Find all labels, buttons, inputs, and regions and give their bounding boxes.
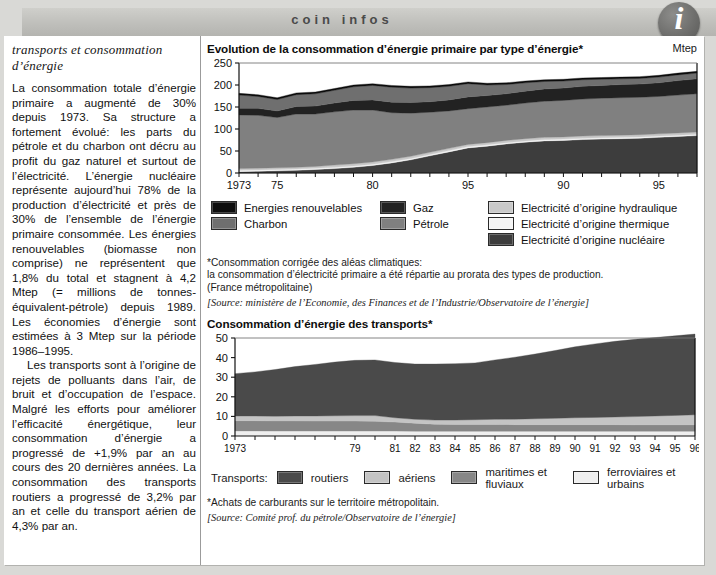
legend-item[interactable]: Electricité d’origine hydraulique (488, 201, 703, 214)
chart2-legend-label: Transports: (211, 472, 268, 484)
legend-swatch-charbon (211, 217, 237, 230)
svg-text:200: 200 (214, 79, 232, 91)
legend-swatch-hydraulique (488, 201, 514, 214)
svg-text:250: 250 (214, 57, 232, 69)
article-body: La consommation totale d’énergie primair… (12, 81, 196, 533)
legend-label: Gaz (413, 202, 434, 214)
chart1-source: [Source: ministère de l’Economie, des Fi… (207, 297, 699, 309)
footnote-line: la consommation d’électricité primaire a… (207, 269, 699, 281)
chart1-legend-col-1: Energies renouvelables Charbon (211, 201, 371, 233)
svg-text:40: 40 (216, 351, 228, 363)
chart1-title: Evolution de la consommation d’énergie p… (207, 42, 699, 55)
legend-swatch-routiers (277, 471, 303, 484)
chart1-legend-col-2: Gaz Pétrole (380, 201, 490, 233)
chart1: 05010015020025019737580959095 (207, 57, 699, 197)
legend-item[interactable]: routiers (277, 471, 349, 484)
svg-text:87: 87 (509, 443, 521, 454)
footnote-line: *Consommation corrigée des aléas climati… (207, 257, 699, 269)
legend-swatch-ferroviaires (573, 471, 599, 484)
legend-item[interactable]: Electricité d’origine nucléaire (488, 233, 703, 246)
svg-text:0: 0 (222, 430, 228, 442)
svg-text:95: 95 (669, 443, 681, 454)
legend-label: aériens (398, 472, 435, 484)
svg-text:81: 81 (389, 443, 401, 454)
svg-text:90: 90 (569, 443, 581, 454)
chart1-legend-col-3: Electricité d’origine hydraulique Electr… (488, 201, 703, 249)
svg-text:50: 50 (220, 145, 232, 157)
content-sheet: transports et consommation d’énergie La … (4, 36, 704, 565)
article-paragraph-1: La consommation totale d’énergie primair… (12, 81, 196, 358)
info-icon-glyph: i (658, 0, 700, 37)
legend-swatch-gaz (380, 201, 406, 214)
svg-text:89: 89 (549, 443, 561, 454)
chart1-plot: 05010015020025019737580959095 (207, 57, 699, 197)
legend-swatch-maritimes (451, 471, 477, 484)
chart2-source: [Source: Comité prof. du pétrole/Observa… (207, 512, 699, 524)
legend-swatch-thermique (488, 217, 514, 230)
chart2-plot: 0102030405019737981828384858687888990919… (207, 332, 699, 460)
footnote-line: *Achats de carburants sur le territoire … (207, 497, 699, 509)
article-paragraph-2: Les transports sont à l’origine de rejet… (12, 358, 196, 533)
chart1-footnotes: *Consommation corrigée des aléas climati… (207, 257, 699, 310)
chart2-footnotes: *Achats de carburants sur le territoire … (207, 497, 699, 525)
svg-text:10: 10 (216, 410, 228, 422)
chart1-unit-label: Mtep (673, 42, 697, 54)
legend-label: Electricité d’origine thermique (521, 218, 669, 230)
left-column: transports et consommation d’énergie La … (12, 42, 196, 533)
legend-swatch-petrole (380, 217, 406, 230)
svg-text:91: 91 (589, 443, 601, 454)
svg-text:50: 50 (216, 332, 228, 344)
legend-label: Electricité d’origine hydraulique (521, 202, 677, 214)
svg-text:30: 30 (216, 371, 228, 383)
legend-item[interactable]: Gaz (380, 201, 490, 214)
svg-text:80: 80 (366, 179, 378, 191)
svg-text:84: 84 (449, 443, 461, 454)
chart1-header: Evolution de la consommation d’énergie p… (207, 42, 699, 55)
svg-text:83: 83 (429, 443, 441, 454)
chart2: 0102030405019737981828384858687888990919… (207, 332, 699, 460)
legend-item[interactable]: aériens (364, 471, 435, 484)
legend-label: maritimes et fluviaux (485, 466, 557, 490)
svg-text:1973: 1973 (224, 443, 247, 454)
legend-label: Electricité d’origine nucléaire (521, 234, 665, 246)
legend-item[interactable]: Electricité d’origine thermique (488, 217, 703, 230)
chart1-legend: Energies renouvelables Charbon Gaz Pétro… (207, 201, 699, 255)
svg-text:75: 75 (271, 179, 283, 191)
legend-item[interactable]: ferroviaires et urbains (573, 466, 683, 490)
svg-text:150: 150 (214, 101, 232, 113)
svg-text:79: 79 (349, 443, 361, 454)
header-title: coin infos (22, 12, 662, 27)
svg-text:82: 82 (409, 443, 421, 454)
header-band: coin infos (22, 8, 716, 36)
legend-swatch-aeriens (364, 471, 390, 484)
legend-item[interactable]: Charbon (211, 217, 371, 230)
legend-label: routiers (311, 472, 349, 484)
footnote-line: (France métropolitaine) (207, 282, 699, 294)
legend-item[interactable]: Energies renouvelables (211, 201, 371, 214)
svg-text:20: 20 (216, 390, 228, 402)
page-root: coin infos i transports et consommation … (0, 0, 716, 575)
svg-text:90: 90 (557, 179, 569, 191)
svg-text:1973: 1973 (227, 179, 251, 191)
svg-text:93: 93 (629, 443, 641, 454)
svg-text:0: 0 (226, 167, 232, 179)
svg-text:92: 92 (609, 443, 621, 454)
legend-swatch-nucleaire (488, 233, 514, 246)
right-column: Evolution de la consommation d’énergie p… (207, 42, 699, 524)
legend-label: Pétrole (413, 218, 449, 230)
column-divider (200, 36, 201, 565)
svg-text:86: 86 (489, 443, 501, 454)
legend-label: ferroviaires et urbains (607, 466, 683, 490)
legend-swatch-renouvelables (211, 201, 237, 214)
legend-label: Charbon (244, 218, 287, 230)
svg-text:88: 88 (529, 443, 541, 454)
svg-text:100: 100 (214, 123, 232, 135)
svg-text:95: 95 (462, 179, 474, 191)
legend-item[interactable]: maritimes et fluviaux (451, 466, 557, 490)
article-kicker: transports et consommation d’énergie (12, 42, 196, 74)
svg-text:94: 94 (649, 443, 661, 454)
chart2-legend: Transports: routiers aériens maritimes e… (211, 466, 699, 490)
legend-label: Energies renouvelables (244, 202, 362, 214)
legend-item[interactable]: Pétrole (380, 217, 490, 230)
chart2-title: Consommation d’énergie des transports* (207, 317, 699, 330)
